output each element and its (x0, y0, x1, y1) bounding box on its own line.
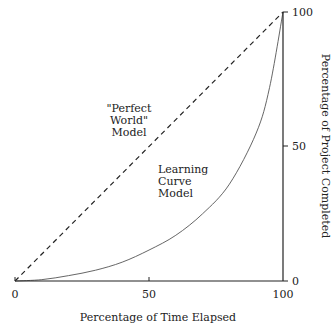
perfect-world-line (15, 12, 283, 281)
y-tick-0: 0 (292, 275, 299, 288)
x-tick-50: 50 (142, 288, 156, 301)
x-axis: 0 50 100 Percentage of Time Elapsed (12, 277, 294, 324)
x-axis-title: Percentage of Time Elapsed (80, 311, 236, 324)
y-axis: 100 50 0 Percentage of Project Completed (283, 6, 332, 288)
plot-area (15, 12, 283, 281)
learning-curve-label: LearningCurveModel (158, 163, 208, 200)
y-tick-100: 100 (292, 6, 313, 19)
y-tick-50: 50 (292, 140, 306, 153)
learning-curve-chart: 0 50 100 Percentage of Time Elapsed 100 … (0, 0, 336, 331)
x-tick-100: 100 (273, 288, 294, 301)
x-tick-0: 0 (12, 288, 19, 301)
annotations: "PerfectWorld"ModelLearningCurveModel (107, 102, 209, 200)
y-axis-title: Percentage of Project Completed (319, 54, 332, 238)
perfect-world-label: "PerfectWorld"Model (107, 102, 152, 139)
